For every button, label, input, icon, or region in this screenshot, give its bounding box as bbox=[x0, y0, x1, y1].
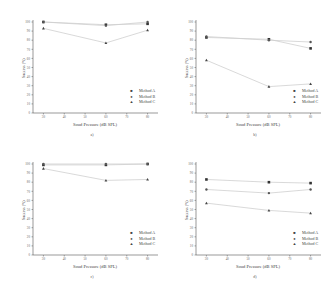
data-point-square bbox=[205, 178, 208, 181]
data-point-circle bbox=[105, 163, 107, 165]
svg-text:50: 50 bbox=[190, 208, 194, 212]
svg-text:70: 70 bbox=[27, 190, 31, 194]
triangle-marker-icon: ▲ bbox=[128, 99, 135, 105]
data-point-square bbox=[309, 182, 312, 185]
data-point-circle bbox=[205, 188, 207, 190]
svg-text:80: 80 bbox=[309, 257, 313, 261]
svg-text:90: 90 bbox=[190, 171, 194, 175]
data-point-circle bbox=[309, 188, 311, 190]
svg-text:50: 50 bbox=[246, 257, 250, 261]
y-axis-label: Success (%) bbox=[21, 200, 26, 220]
svg-text:20: 20 bbox=[27, 93, 31, 97]
legend-label: Method C bbox=[302, 99, 318, 105]
svg-text:70: 70 bbox=[190, 190, 194, 194]
data-point-circle bbox=[42, 163, 44, 165]
svg-text:90: 90 bbox=[27, 171, 31, 175]
svg-text:20: 20 bbox=[190, 93, 194, 97]
svg-text:100: 100 bbox=[188, 162, 193, 166]
y-axis-label: Success (%) bbox=[184, 200, 189, 220]
legend: ■Method A●Method B▲Method C bbox=[128, 88, 155, 105]
svg-text:30: 30 bbox=[27, 84, 31, 88]
data-point-circle bbox=[309, 41, 311, 43]
svg-text:50: 50 bbox=[27, 208, 31, 212]
panel-caption: d) bbox=[253, 274, 256, 279]
svg-text:60: 60 bbox=[267, 257, 271, 261]
svg-text:90: 90 bbox=[190, 29, 194, 33]
svg-text:70: 70 bbox=[125, 115, 129, 119]
data-point-triangle bbox=[42, 27, 45, 30]
y-axis-label: Success (%) bbox=[21, 58, 26, 78]
x-axis-label: Soud Pressure (dB SPL) bbox=[73, 122, 117, 127]
legend: ■Method A●Method B▲Method C bbox=[128, 230, 155, 247]
svg-text:30: 30 bbox=[205, 257, 209, 261]
svg-text:30: 30 bbox=[42, 115, 46, 119]
svg-text:80: 80 bbox=[190, 38, 194, 42]
svg-text:90: 90 bbox=[27, 29, 31, 33]
svg-text:40: 40 bbox=[63, 115, 67, 119]
svg-text:80: 80 bbox=[146, 257, 150, 261]
svg-text:30: 30 bbox=[190, 84, 194, 88]
data-point-circle bbox=[146, 21, 148, 23]
svg-text:100: 100 bbox=[25, 20, 30, 24]
svg-text:60: 60 bbox=[27, 199, 31, 203]
svg-text:50: 50 bbox=[83, 257, 87, 261]
svg-text:80: 80 bbox=[27, 180, 31, 184]
panel-caption: b) bbox=[253, 132, 256, 137]
svg-text:80: 80 bbox=[146, 115, 150, 119]
data-point-circle bbox=[268, 192, 270, 194]
data-point-square bbox=[268, 181, 271, 184]
svg-text:80: 80 bbox=[27, 38, 31, 42]
svg-text:20: 20 bbox=[190, 235, 194, 239]
legend: ■Method A●Method B▲Method C bbox=[291, 88, 318, 105]
y-axis-label: Success (%) bbox=[184, 58, 189, 78]
svg-text:40: 40 bbox=[226, 257, 230, 261]
legend-item: ▲Method C bbox=[128, 99, 155, 105]
svg-text:0: 0 bbox=[191, 111, 193, 115]
legend-label: Method C bbox=[302, 241, 318, 247]
svg-text:40: 40 bbox=[27, 217, 31, 221]
panel-caption: c) bbox=[90, 274, 93, 279]
svg-text:20: 20 bbox=[27, 235, 31, 239]
svg-text:70: 70 bbox=[125, 257, 129, 261]
svg-text:30: 30 bbox=[190, 226, 194, 230]
panel-caption: a) bbox=[90, 132, 93, 137]
svg-text:30: 30 bbox=[42, 257, 46, 261]
svg-text:70: 70 bbox=[288, 257, 292, 261]
chart-panel-b: 0102030405060708090100304050607080Succes… bbox=[163, 0, 326, 142]
svg-text:70: 70 bbox=[190, 48, 194, 52]
svg-text:10: 10 bbox=[190, 102, 194, 106]
data-point-circle bbox=[205, 35, 207, 37]
data-point-circle bbox=[105, 24, 107, 26]
svg-text:0: 0 bbox=[28, 111, 30, 115]
svg-text:50: 50 bbox=[83, 115, 87, 119]
x-axis-label: Soud Pressure (dB SPL) bbox=[73, 264, 117, 269]
svg-text:60: 60 bbox=[104, 115, 108, 119]
svg-text:60: 60 bbox=[267, 115, 271, 119]
svg-text:80: 80 bbox=[190, 180, 194, 184]
svg-text:50: 50 bbox=[27, 66, 31, 70]
svg-text:50: 50 bbox=[246, 115, 250, 119]
chart-panel-a: 0102030405060708090100304050607080Succes… bbox=[0, 0, 163, 142]
legend-label: Method C bbox=[139, 99, 155, 105]
svg-text:100: 100 bbox=[188, 20, 193, 24]
svg-text:30: 30 bbox=[27, 226, 31, 230]
svg-text:60: 60 bbox=[190, 199, 194, 203]
data-point-circle bbox=[146, 163, 148, 165]
x-axis-label: Soud Pressure (dB SPL) bbox=[236, 264, 280, 269]
data-point-triangle bbox=[146, 29, 149, 32]
svg-text:40: 40 bbox=[190, 217, 194, 221]
svg-text:30: 30 bbox=[205, 115, 209, 119]
svg-text:40: 40 bbox=[27, 75, 31, 79]
triangle-marker-icon: ▲ bbox=[291, 241, 298, 247]
x-axis-label: Soud Pressure (dB SPL) bbox=[236, 122, 280, 127]
svg-text:40: 40 bbox=[226, 115, 230, 119]
legend-item: ▲Method C bbox=[128, 241, 155, 247]
legend: ■Method A●Method B▲Method C bbox=[291, 230, 318, 247]
svg-text:10: 10 bbox=[27, 244, 31, 248]
data-point-triangle bbox=[205, 59, 208, 62]
triangle-marker-icon: ▲ bbox=[291, 99, 298, 105]
chart-panel-d: 0102030405060708090100304050607080Succes… bbox=[163, 142, 326, 284]
legend-label: Method C bbox=[139, 241, 155, 247]
legend-item: ▲Method C bbox=[291, 241, 318, 247]
svg-text:60: 60 bbox=[104, 257, 108, 261]
